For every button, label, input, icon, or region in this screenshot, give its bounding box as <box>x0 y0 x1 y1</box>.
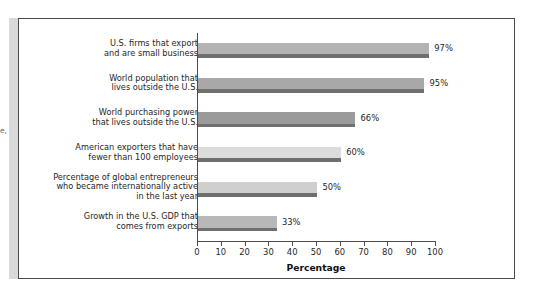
bar-fill <box>198 216 277 228</box>
x-axis-tick-label: 40 <box>287 247 298 257</box>
bar-base-shadow <box>198 54 429 58</box>
x-axis-tick <box>364 241 365 246</box>
x-axis-tick <box>268 241 269 246</box>
x-axis-tick-label: 30 <box>263 247 274 257</box>
bar-base-shadow <box>198 193 317 197</box>
bar <box>198 182 317 197</box>
x-axis-tick <box>387 241 388 246</box>
bar-base-shadow <box>198 158 341 162</box>
bar <box>198 43 429 58</box>
x-axis-tick <box>221 241 222 246</box>
category-label: Growth in the U.S. GDP that comes from e… <box>0 212 198 231</box>
x-axis-tick-label: 90 <box>406 247 417 257</box>
x-axis-tick <box>197 241 198 246</box>
x-axis-tick <box>245 241 246 246</box>
x-axis-tick-label: 70 <box>358 247 369 257</box>
x-axis-tick <box>316 241 317 246</box>
bar-fill <box>198 43 429 55</box>
bar-base-shadow <box>198 124 355 128</box>
bar-base-shadow <box>198 228 277 232</box>
figure-frame: U.S. firms that export and are small bus… <box>18 18 515 279</box>
bar-value-label: 97% <box>434 43 453 53</box>
category-label: World purchasing power that lives outsid… <box>0 108 198 127</box>
bar-fill <box>198 147 341 159</box>
bar <box>198 112 355 127</box>
bar-fill <box>198 112 355 124</box>
x-axis-tick-label: 60 <box>334 247 345 257</box>
bar-value-label: 60% <box>346 147 365 157</box>
x-axis-tick-label: 80 <box>382 247 393 257</box>
y-axis-line <box>197 33 198 241</box>
bar-value-label: 66% <box>360 113 379 123</box>
bar-fill <box>198 182 317 194</box>
bar-chart: U.S. firms that export and are small bus… <box>19 19 514 278</box>
x-axis-tick <box>435 241 436 246</box>
category-label: Percentage of global entrepreneurs who b… <box>0 173 198 202</box>
bar-fill <box>198 78 424 90</box>
bar-value-label: 50% <box>322 182 341 192</box>
plot-area: 97%95%66%60%50%33% 010203040506070809010… <box>197 33 435 241</box>
bar <box>198 78 424 93</box>
x-axis-tick-label: 100 <box>427 247 443 257</box>
category-label: American exporters that have fewer than … <box>0 143 198 162</box>
x-axis-tick <box>292 241 293 246</box>
x-axis-tick-label: 20 <box>239 247 250 257</box>
x-axis-tick <box>340 241 341 246</box>
bar-value-label: 95% <box>429 78 448 88</box>
bar <box>198 216 277 231</box>
bar-base-shadow <box>198 89 424 93</box>
category-label: World population that lives outside the … <box>0 74 198 93</box>
x-axis-tick-label: 0 <box>194 247 199 257</box>
category-label: U.S. firms that export and are small bus… <box>0 39 198 58</box>
x-axis-tick <box>411 241 412 246</box>
x-axis-title: Percentage <box>197 262 435 273</box>
x-axis-tick-label: 50 <box>311 247 322 257</box>
x-axis-tick-label: 10 <box>215 247 226 257</box>
bar <box>198 147 341 162</box>
bar-value-label: 33% <box>282 217 301 227</box>
